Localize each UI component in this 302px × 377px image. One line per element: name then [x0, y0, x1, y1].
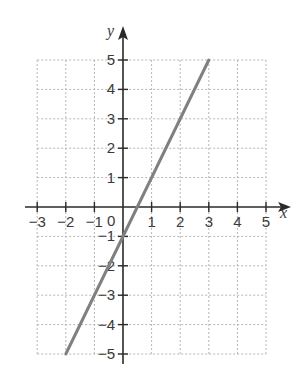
x-tick-label: −2 [57, 213, 74, 230]
x-tick-label: 2 [176, 213, 184, 230]
x-axis-label: x [279, 204, 287, 221]
origin-label: 0 [107, 212, 115, 229]
y-tick-label: 1 [107, 169, 115, 186]
axes [25, 26, 291, 364]
y-tick-label: 3 [107, 110, 115, 127]
y-tick-label: 4 [107, 80, 115, 97]
y-tick-label: −1 [98, 227, 115, 244]
y-tick-label: −4 [98, 316, 115, 333]
x-tick-label: 4 [233, 213, 241, 230]
y-tick-label: −5 [98, 345, 115, 362]
y-tick-label: −3 [98, 286, 115, 303]
x-tick-label: −3 [29, 213, 46, 230]
y-axis-label: y [105, 22, 115, 40]
line-graph: −3−2−11234554321−1−2−3−4−5 x y 0 [0, 0, 302, 377]
x-tick-label: 1 [147, 213, 155, 230]
y-tick-label: 5 [107, 51, 115, 68]
x-tick-label: 3 [205, 213, 213, 230]
x-tick-label: 5 [262, 213, 270, 230]
y-tick-label: 2 [107, 139, 115, 156]
